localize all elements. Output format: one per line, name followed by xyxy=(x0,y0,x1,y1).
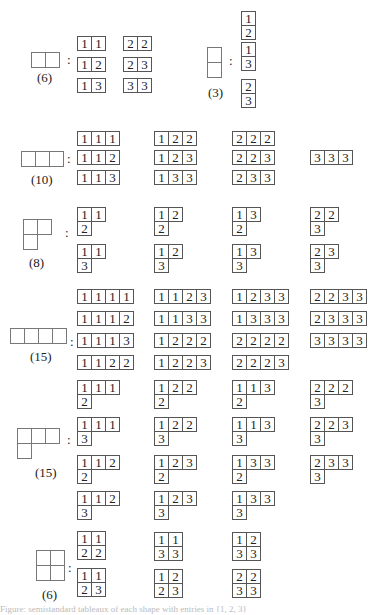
tableau: 233 xyxy=(233,171,275,185)
tableau-cell: 3 xyxy=(352,333,367,348)
tableau-cell: 3 xyxy=(246,311,261,326)
tableau-cell: 3 xyxy=(182,150,197,165)
tableau-row: 3 xyxy=(155,432,197,446)
tableau-cell: 2 xyxy=(77,545,92,560)
tableau-cell: 2 xyxy=(232,394,247,409)
tableau-cell: 1 xyxy=(154,355,169,370)
tableau-cell: 1 xyxy=(105,380,120,395)
tableau-cell: 2 xyxy=(168,355,183,370)
tableau-cell: 1 xyxy=(91,455,106,470)
tableau-cell: 2 xyxy=(168,569,183,584)
tableau-cell: 3 xyxy=(246,583,261,598)
tableau-cell: 2 xyxy=(154,469,169,484)
tableau-cell: 1 xyxy=(154,569,169,584)
tableau-cell: 1 xyxy=(77,531,92,546)
tableau-cell: 2 xyxy=(105,150,120,165)
tableau-cell: 3 xyxy=(154,546,169,561)
tableau: 2223 xyxy=(233,356,289,370)
count-label: (10) xyxy=(31,172,53,188)
tableau-cell: 2 xyxy=(260,355,275,370)
tableau: 2233 xyxy=(311,290,367,304)
tableau-cell: 3 xyxy=(232,431,247,446)
tableau-cell: 2 xyxy=(310,380,325,395)
tableau-row xyxy=(18,444,60,459)
tableau: 1222 xyxy=(155,381,197,409)
tableau: 1223 xyxy=(155,356,211,370)
tableau: 1123 xyxy=(78,569,106,597)
tableau-row: 2222 xyxy=(233,334,289,348)
tableau-row: 2 xyxy=(233,395,275,409)
tableau-cell: 1 xyxy=(77,36,92,51)
tableau-row: 3 xyxy=(78,259,106,273)
tableau-row: 12 xyxy=(155,570,183,584)
tableau-cell: 3 xyxy=(119,333,134,348)
tableau-cell: 1 xyxy=(77,150,92,165)
shape-diagram-shape-3 xyxy=(22,152,64,167)
tableau-cell: 2 xyxy=(246,355,261,370)
tableau-row: 13 xyxy=(233,245,261,259)
tableau-cell: 2 xyxy=(338,380,353,395)
tableau-cell: 1 xyxy=(154,491,169,506)
tableau-row: 123 xyxy=(155,492,197,506)
tableau-row xyxy=(208,48,222,63)
tableau: 1232 xyxy=(155,456,197,484)
tableau-cell: 3 xyxy=(232,258,247,273)
tableau-cell: 2 xyxy=(232,569,247,584)
tableau: 112 xyxy=(78,151,120,165)
tableau-cell: 3 xyxy=(260,150,275,165)
tableau-cell: 2 xyxy=(105,355,120,370)
tableau: 333 xyxy=(311,151,353,165)
tableau-row: 112 xyxy=(78,151,120,165)
shape-cell xyxy=(23,234,38,250)
separator-colon: : xyxy=(229,53,233,69)
shape-cell xyxy=(38,328,53,344)
tableau-row: 3 xyxy=(233,259,261,273)
tableau-cell: 3 xyxy=(274,311,289,326)
tableau-cell: 1 xyxy=(91,491,106,506)
shape-cell xyxy=(36,565,51,581)
tableau-cell: 1 xyxy=(105,417,120,432)
tableau-row: 13 xyxy=(233,208,261,222)
tableau-cell: 1 xyxy=(91,36,106,51)
tableau: 112 xyxy=(78,208,106,236)
tableau-row xyxy=(24,220,52,235)
tableau-cell: 3 xyxy=(246,244,261,259)
tableau-row: 223 xyxy=(311,418,353,432)
tableau-row: 2 xyxy=(242,26,256,40)
tableau-row: 1123 xyxy=(155,290,211,304)
tableau-row: 23 xyxy=(78,583,106,597)
tableau-row xyxy=(32,53,60,68)
tableau-cell: 2 xyxy=(324,207,339,222)
tableau: 122 xyxy=(155,132,197,146)
tableau-cell: 1 xyxy=(154,289,169,304)
tableau-cell: 1 xyxy=(91,355,106,370)
tableau: 1133 xyxy=(155,533,183,561)
tableau-row: 113 xyxy=(233,381,275,395)
tableau-row: 1333 xyxy=(233,312,289,326)
tableau-cell: 1 xyxy=(119,289,134,304)
tableau-cell: 3 xyxy=(232,505,247,520)
count-label: (6) xyxy=(37,70,52,86)
tableau-cell: 3 xyxy=(324,244,339,259)
tableau-row: 3 xyxy=(242,57,256,71)
tableau-cell: 2 xyxy=(137,36,152,51)
tableau-cell: 3 xyxy=(168,583,183,598)
tableau-row: 3 xyxy=(78,432,120,446)
tableau-cell: 3 xyxy=(324,311,339,326)
tableau-row: 111 xyxy=(78,418,120,432)
tableau-cell: 1 xyxy=(154,532,169,547)
tableau-row: 1223 xyxy=(155,356,211,370)
tableau-cell: 2 xyxy=(154,394,169,409)
tableau-cell: 2 xyxy=(274,333,289,348)
tableau-cell: 2 xyxy=(168,150,183,165)
tableau: 1233 xyxy=(233,533,261,561)
tableau-row xyxy=(208,63,222,78)
tableau-cell: 1 xyxy=(154,455,169,470)
tableau-cell: 2 xyxy=(232,170,247,185)
tableau-cell: 3 xyxy=(196,289,211,304)
tableau-cell: 3 xyxy=(91,582,106,597)
tableau-cell: 3 xyxy=(77,431,92,446)
tableau: 3333 xyxy=(311,334,367,348)
tableau-cell: 2 xyxy=(182,417,197,432)
tableau: 132 xyxy=(233,208,261,236)
